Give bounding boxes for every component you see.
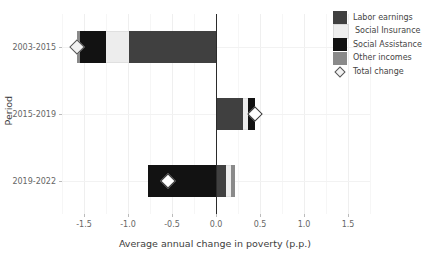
legend-item-total-change[interactable]: Total change	[333, 65, 422, 79]
x-tick-label: -0.5	[164, 220, 180, 229]
legend-item-social-insurance[interactable]: Social Insurance	[333, 25, 422, 39]
legend-label-social-insurance: Social Insurance	[355, 27, 421, 35]
y-tick-label: 2015-2019	[4, 110, 56, 119]
x-tick-mark	[84, 214, 85, 217]
chart-figure: Period Average annual change in poverty …	[0, 0, 430, 259]
y-tick-mark	[59, 47, 62, 48]
legend-swatch-other-incomes	[333, 52, 347, 65]
zero-axis-line	[216, 14, 217, 214]
legend-item-social-assistance[interactable]: Social Assistance	[333, 38, 422, 52]
plot-area	[62, 14, 370, 214]
legend-label-total-change: Total change	[353, 68, 404, 76]
bar-segment[interactable]	[148, 165, 216, 197]
legend-swatch-total-change	[333, 65, 347, 78]
legend-item-labor-earnings[interactable]: Labor earnings	[333, 11, 422, 25]
legend-swatch-social-assistance	[333, 38, 347, 51]
legend-label-social-assistance: Social Assistance	[353, 41, 422, 49]
y-tick-mark	[59, 181, 62, 182]
x-tick-label: 1.0	[298, 220, 311, 229]
bar-segment[interactable]	[216, 98, 243, 130]
x-tick-label: 0.5	[254, 220, 267, 229]
x-tick-label: 1.5	[342, 220, 355, 229]
bar-segment[interactable]	[216, 165, 226, 197]
legend-item-other-incomes[interactable]: Other incomes	[333, 52, 422, 66]
y-tick-label: 2003-2015	[4, 43, 56, 52]
legend-label-other-incomes: Other incomes	[353, 54, 412, 62]
x-tick-mark	[260, 214, 261, 217]
chart-legend: Labor earnings Social Insurance Social A…	[333, 11, 422, 79]
x-tick-label: -1.5	[76, 220, 92, 229]
bar-segment[interactable]	[231, 165, 235, 197]
legend-swatch-social-insurance	[333, 24, 349, 39]
x-tick-mark	[172, 214, 173, 217]
x-tick-mark	[304, 214, 305, 217]
diamond-marker-icon	[334, 66, 345, 77]
legend-swatch-labor-earnings	[333, 11, 347, 24]
legend-label-labor-earnings: Labor earnings	[353, 14, 413, 22]
x-tick-mark	[348, 214, 349, 217]
x-tick-mark	[128, 214, 129, 217]
bar-segment[interactable]	[106, 31, 129, 63]
y-tick-mark	[59, 114, 62, 115]
x-tick-label: 0.0	[210, 220, 223, 229]
x-axis-label: Average annual change in poverty (p.p.)	[0, 238, 430, 249]
x-tick-label: -1.0	[120, 220, 136, 229]
y-tick-label: 2019-2022	[4, 176, 56, 185]
bar-segment[interactable]	[129, 31, 216, 63]
x-tick-mark	[216, 214, 217, 217]
